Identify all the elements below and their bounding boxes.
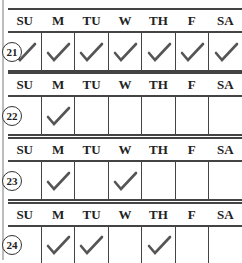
day-cell-f[interactable] — [176, 97, 210, 134]
day-header-m: M — [41, 10, 74, 31]
day-cell-sa[interactable] — [209, 33, 242, 70]
day-cell-m[interactable] — [42, 162, 76, 199]
day-header-w: W — [108, 74, 141, 95]
day-header-sa: SA — [209, 204, 242, 225]
day-cell-f[interactable] — [176, 162, 210, 199]
checkmark-icon — [78, 234, 104, 256]
day-cell-th[interactable] — [142, 227, 176, 263]
checkmark-icon — [45, 41, 71, 63]
day-header-th: TH — [142, 204, 175, 225]
checkbox-row: 23 — [8, 162, 242, 201]
day-header-sa: SA — [209, 74, 242, 95]
day-header-w: W — [108, 139, 141, 160]
day-cell-w[interactable] — [109, 162, 143, 199]
checkmark-icon — [213, 41, 239, 63]
checkmark-icon — [179, 41, 205, 63]
day-cell-m[interactable] — [42, 227, 76, 263]
day-cell-th[interactable] — [142, 97, 176, 134]
day-header-w: W — [108, 10, 141, 31]
day-cell-w[interactable] — [109, 97, 143, 134]
week-block-21: SUMTUWTHFSA21 — [8, 8, 242, 72]
day-header-tu: TU — [75, 139, 108, 160]
day-header-row: SUMTUWTHFSA — [8, 137, 242, 162]
day-cell-f[interactable] — [176, 33, 210, 70]
row-number-badge: 24 — [2, 235, 22, 255]
day-header-m: M — [41, 74, 74, 95]
day-header-f: F — [175, 139, 208, 160]
row-number-badge: 21 — [2, 42, 22, 62]
checkmark-icon — [78, 41, 104, 63]
day-cell-tu[interactable] — [75, 97, 109, 134]
day-header-row: SUMTUWTHFSA — [8, 202, 242, 227]
checkmark-icon — [45, 170, 71, 192]
day-header-th: TH — [142, 74, 175, 95]
day-header-su: SU — [8, 10, 41, 31]
day-cell-w[interactable] — [109, 227, 143, 263]
day-header-row: SUMTUWTHFSA — [8, 8, 242, 33]
checkmark-icon — [45, 105, 71, 127]
day-header-f: F — [175, 10, 208, 31]
day-header-su: SU — [8, 204, 41, 225]
checkmark-icon — [146, 234, 172, 256]
day-cell-w[interactable] — [109, 33, 143, 70]
day-cell-sa[interactable] — [209, 97, 242, 134]
day-header-row: SUMTUWTHFSA — [8, 72, 242, 97]
day-cell-th[interactable] — [142, 162, 176, 199]
day-header-m: M — [41, 139, 74, 160]
week-block-23: SUMTUWTHFSA23 — [8, 137, 242, 201]
left-margin-bar — [2, 0, 4, 260]
checkmark-icon — [45, 234, 71, 256]
day-cell-sa[interactable] — [209, 227, 242, 263]
day-header-tu: TU — [75, 74, 108, 95]
day-header-th: TH — [142, 139, 175, 160]
day-header-tu: TU — [75, 204, 108, 225]
day-cell-th[interactable] — [142, 33, 176, 70]
day-cell-tu[interactable] — [75, 162, 109, 199]
week-block-22: SUMTUWTHFSA22 — [8, 72, 242, 136]
day-cell-m[interactable] — [42, 97, 76, 134]
day-header-tu: TU — [75, 10, 108, 31]
day-cell-f[interactable] — [176, 227, 210, 263]
day-header-m: M — [41, 204, 74, 225]
day-header-th: TH — [142, 10, 175, 31]
checkbox-row: 22 — [8, 97, 242, 136]
day-header-f: F — [175, 204, 208, 225]
checkmark-icon — [112, 41, 138, 63]
day-header-su: SU — [8, 139, 41, 160]
row-number-badge: 22 — [2, 106, 22, 126]
checkbox-row: 21 — [8, 33, 242, 72]
checkbox-row: 24 — [8, 227, 242, 263]
day-cell-m[interactable] — [42, 33, 76, 70]
week-block-24: SUMTUWTHFSA24 — [8, 202, 242, 263]
checkmark-icon — [112, 170, 138, 192]
day-header-sa: SA — [209, 10, 242, 31]
day-cell-tu[interactable] — [75, 33, 109, 70]
day-cell-sa[interactable] — [209, 162, 242, 199]
day-cell-tu[interactable] — [75, 227, 109, 263]
checkmark-icon — [146, 41, 172, 63]
day-header-w: W — [108, 204, 141, 225]
day-header-su: SU — [8, 74, 41, 95]
day-header-sa: SA — [209, 139, 242, 160]
row-number-badge: 23 — [2, 171, 22, 191]
day-header-f: F — [175, 74, 208, 95]
